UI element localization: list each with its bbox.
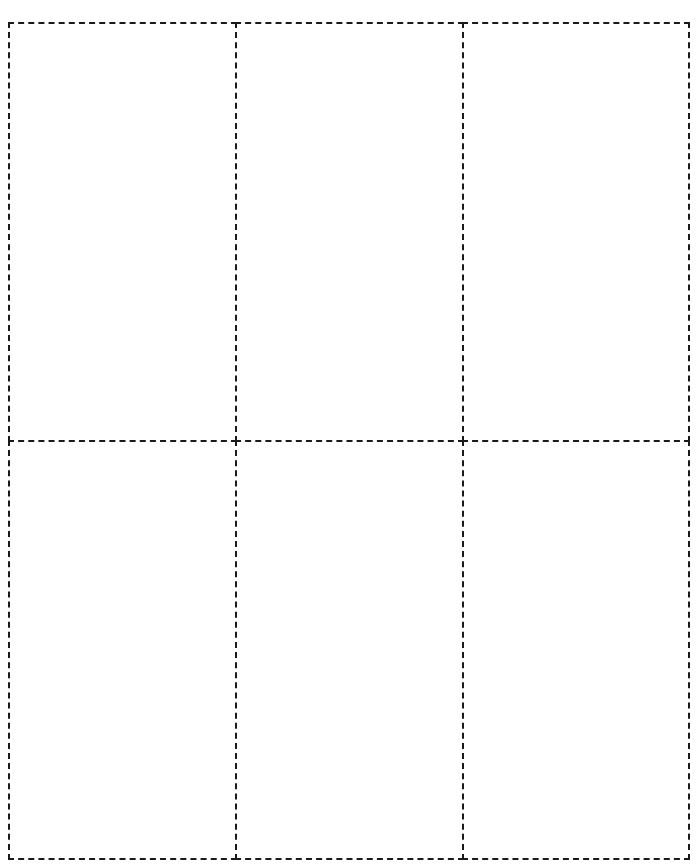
- card-r2-c2: [235, 440, 464, 860]
- card-sheet: [8, 22, 690, 860]
- card-r2-c1: [8, 440, 237, 860]
- card-r2-c3: [462, 440, 690, 860]
- card-r1-c2: [235, 22, 464, 442]
- card-r1-c1: [8, 22, 237, 442]
- card-grid: [8, 22, 690, 860]
- page-title-cropped: [0, 0, 697, 6]
- card-r1-c3: [462, 22, 690, 442]
